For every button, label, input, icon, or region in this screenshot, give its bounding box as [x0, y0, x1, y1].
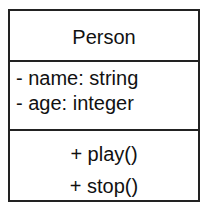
attribute-name: - name: string: [16, 66, 198, 91]
operation-stop: + stop(): [10, 170, 198, 202]
attributes-compartment: - name: string - age: integer: [10, 62, 198, 131]
class-name: Person: [72, 25, 135, 47]
operation-play: + play(): [10, 138, 198, 170]
class-name-compartment: Person: [10, 11, 198, 62]
attribute-age: - age: integer: [16, 91, 198, 116]
operations-compartment: + play() + stop(): [10, 131, 198, 200]
uml-class-box: Person - name: string - age: integer + p…: [8, 9, 200, 202]
